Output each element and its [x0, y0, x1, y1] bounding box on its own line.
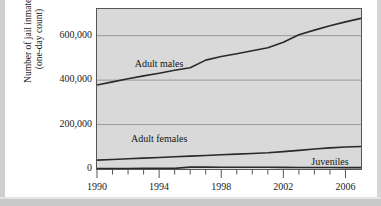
series-line-adult-males	[97, 18, 361, 85]
adult-females-label: Adult females	[131, 133, 187, 144]
x-axis-tick-labels: 19901994199820022006	[0, 181, 381, 197]
plot-svg	[97, 9, 361, 169]
x-axis-ticks	[96, 170, 362, 181]
y-tick-label: 600,000	[28, 29, 92, 40]
adult-males-label: Adult males	[135, 58, 184, 69]
y-tick-label: 200,000	[28, 118, 92, 129]
x-tick-label: 1990	[87, 181, 107, 192]
series-lines	[97, 18, 361, 168]
gridlines	[97, 36, 361, 125]
chart-figure: Number of jail inmates (one-day count) 0…	[0, 0, 381, 206]
x-tick-label: 1994	[149, 181, 169, 192]
juveniles-label: Juveniles	[311, 156, 348, 167]
plot-area	[96, 8, 362, 170]
x-tick-label: 2002	[273, 181, 293, 192]
x-tick-label: 1998	[211, 181, 231, 192]
page-edge-left	[0, 0, 5, 206]
x-tick-label: 2006	[335, 181, 355, 192]
y-axis-tick-labels: 0200,000400,000600,000	[24, 0, 92, 206]
series-line-juveniles	[97, 167, 361, 169]
y-tick-label: 0	[28, 162, 92, 173]
page-edge-right	[377, 0, 381, 206]
y-tick-label: 400,000	[28, 73, 92, 84]
